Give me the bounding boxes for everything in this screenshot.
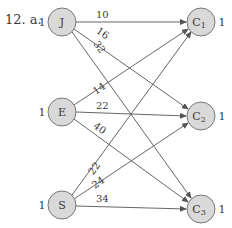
demand-c2: 1 — [219, 110, 226, 123]
sink-node-c1: C1 1 — [187, 8, 226, 36]
weight-j-c3: 32 — [91, 39, 107, 56]
source-node-e: E 1 — [39, 98, 77, 126]
node-label-c2: C — [192, 110, 200, 123]
node-label-s: S — [58, 199, 66, 212]
node-label-e: E — [58, 106, 66, 119]
weight-s-c2: 24 — [90, 174, 107, 190]
source-node-s: S 1 — [39, 191, 77, 219]
weight-j-c2: 16 — [94, 25, 111, 41]
edge-j-c2 — [74, 29, 188, 109]
edge-s-c3 — [76, 206, 186, 209]
weight-e-c1: 14 — [91, 80, 108, 96]
supply-s: 1 — [39, 199, 46, 212]
edge-e-c1 — [74, 29, 188, 105]
sink-node-c3: C3 1 — [187, 195, 226, 223]
edge-weights: 10 16 32 14 22 40 22 24 34 — [86, 9, 111, 204]
node-sub-c1: 1 — [201, 21, 206, 30]
bipartite-network-diagram: 10 16 32 14 22 40 22 24 34 J 1 E 1 S 1 C… — [0, 0, 232, 228]
source-node-j: J 1 — [39, 8, 77, 36]
demand-c3: 1 — [219, 203, 226, 216]
weight-e-c2: 22 — [96, 100, 109, 111]
node-label-c1: C — [192, 16, 200, 29]
supply-j: 1 — [39, 16, 46, 29]
weight-j-c1: 10 — [96, 9, 109, 20]
node-label-c3: C — [192, 203, 200, 216]
node-sub-c3: 3 — [201, 208, 206, 217]
sink-node-c2: C2 1 — [187, 102, 226, 130]
edge-s-c2 — [74, 123, 188, 199]
supply-e: 1 — [39, 106, 46, 119]
node-sub-c2: 2 — [201, 115, 206, 124]
node-label-j: J — [59, 16, 64, 29]
demand-c1: 1 — [219, 16, 226, 29]
weight-s-c3: 34 — [96, 193, 109, 204]
